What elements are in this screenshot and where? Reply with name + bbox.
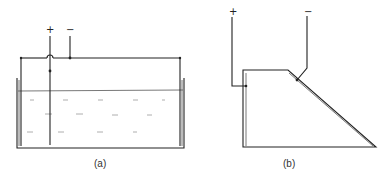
tank-outline	[17, 78, 184, 148]
minus-terminal-label: −	[66, 24, 74, 35]
inner-line-slant	[289, 73, 373, 146]
junction-dot	[49, 70, 52, 73]
liquid-level-line	[18, 90, 183, 91]
negative-lead	[297, 16, 307, 80]
panel-b: + − (b)	[229, 6, 376, 169]
junction-dot	[245, 85, 248, 88]
junction-dot	[20, 57, 22, 59]
workpiece-outline	[243, 70, 376, 147]
junction-dot	[179, 57, 181, 59]
plus-terminal-label: +	[46, 24, 54, 35]
minus-terminal-label: −	[304, 6, 312, 17]
positive-lead	[232, 17, 246, 86]
panel-a: + −	[17, 24, 184, 169]
plus-terminal-label: +	[229, 6, 237, 17]
junction-dot	[296, 79, 299, 82]
diagram-canvas: + −	[0, 0, 390, 174]
panel-a-caption: (a)	[94, 158, 106, 169]
junction-dot	[69, 57, 72, 60]
panel-b-caption: (b)	[283, 158, 295, 169]
electrolyte-dashes	[27, 100, 165, 132]
